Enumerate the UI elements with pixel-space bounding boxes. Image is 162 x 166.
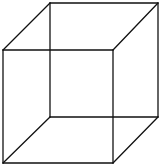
depth-edge [3,117,50,163]
depth-edge [3,3,50,50]
depth-edge [113,117,158,163]
depth-edge [113,3,158,50]
cube-wireframe [3,3,158,163]
necker-cube-diagram [0,0,162,166]
